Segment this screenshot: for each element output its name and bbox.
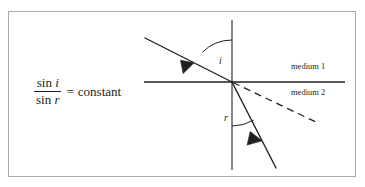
numerator-variable-i: i bbox=[55, 75, 59, 90]
fraction-denominator: sin r bbox=[34, 93, 61, 107]
medium-2-label: medium 2 bbox=[291, 88, 325, 97]
angle-of-incidence-label: i bbox=[219, 56, 222, 66]
medium-1-label: medium 1 bbox=[291, 62, 325, 71]
sine-ratio-fraction: sin i sin r bbox=[34, 76, 61, 107]
refraction-diagram-figure: sin i sin r = constant medium 1 medium 2… bbox=[0, 0, 365, 187]
denominator-variable-r: r bbox=[54, 92, 59, 107]
denominator-sin-function: sin bbox=[36, 92, 51, 107]
angle-of-refraction-label: r bbox=[224, 113, 228, 123]
constant-word: constant bbox=[78, 84, 121, 100]
fraction-numerator: sin i bbox=[35, 76, 61, 90]
numerator-sin-function: sin bbox=[37, 75, 52, 90]
snells-law-formula: sin i sin r = constant bbox=[34, 76, 121, 107]
equals-sign: = bbox=[66, 84, 73, 100]
